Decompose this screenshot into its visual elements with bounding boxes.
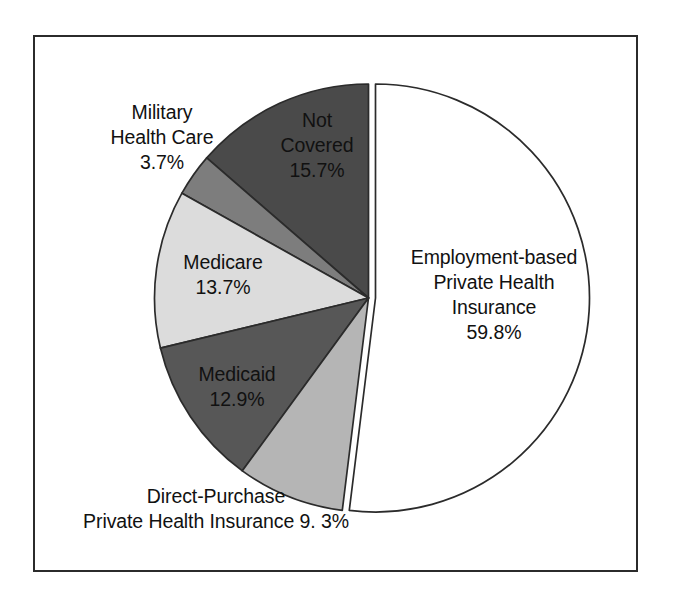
label-line: Medicare [148,250,298,275]
slice-label-military-health-care: Military Health Care 3.7% [62,100,262,175]
label-line: Covered [258,133,376,158]
label-line: Direct-Purchase [46,484,386,509]
slice-label-direct-purchase: Direct-Purchase Private Health Insurance… [46,484,386,534]
slice-label-medicaid: Medicaid 12.9% [166,362,308,412]
label-percent: 12.9% [166,387,308,412]
label-line: Not [258,108,376,133]
label-line: Insurance [396,295,592,320]
label-percent: 15.7% [258,158,376,183]
label-percent: 3.7% [62,150,262,175]
label-line: Military [62,100,262,125]
label-line: Private Health [396,270,592,295]
label-line: Private Health Insurance 9. 3% [46,509,386,534]
slice-label-not-covered: Not Covered 15.7% [258,108,376,183]
label-line: Health Care [62,125,262,150]
slice-label-employment-based: Employment-based Private Health Insuranc… [396,245,592,345]
pie-chart-figure: Military Health Care 3.7% Not Covered 15… [0,0,675,602]
label-line: Medicaid [166,362,308,387]
label-line: Employment-based [396,245,592,270]
slice-label-medicare: Medicare 13.7% [148,250,298,300]
label-percent: 59.8% [396,320,592,345]
label-percent: 13.7% [148,275,298,300]
